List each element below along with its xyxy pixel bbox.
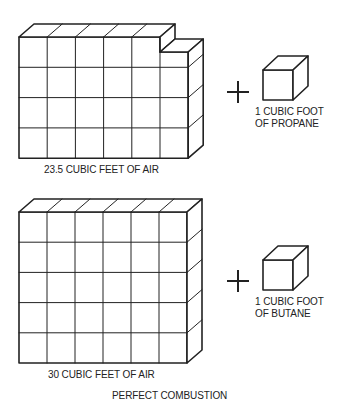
air-label-butane: 30 CUBIC FEET OF AIR xyxy=(48,369,155,381)
fuel-label-butane-line1: 1 CUBIC FOOT xyxy=(255,296,324,308)
butane-air-block xyxy=(19,199,202,363)
propane-cube xyxy=(263,56,308,100)
propane-air-block xyxy=(19,24,203,158)
combustion-diagram xyxy=(0,0,343,407)
diagram-caption: PERFECT COMBUSTION xyxy=(112,390,227,402)
air-label-propane: 23.5 CUBIC FEET OF AIR xyxy=(44,164,159,176)
plus-sign-propane xyxy=(227,81,249,103)
fuel-label-propane-line1: 1 CUBIC FOOT xyxy=(255,106,324,118)
fuel-label-propane-line2: OF PROPANE xyxy=(255,118,319,130)
butane-cube xyxy=(263,246,308,290)
plus-sign-butane xyxy=(227,270,249,292)
fuel-label-butane-line2: OF BUTANE xyxy=(255,308,311,320)
